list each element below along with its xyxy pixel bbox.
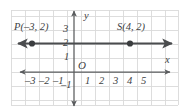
point-s-marker xyxy=(127,40,133,46)
origin-label: O xyxy=(78,60,86,71)
graph-canvas xyxy=(0,0,184,112)
point-label-s: S(4, 2) xyxy=(117,22,145,33)
x-tick-label-3: 3 xyxy=(113,76,118,87)
coordinate-plane-figure: P(–3, 2) S(4, 2) y x O 3 2 1 –1 –3 –2 –1… xyxy=(0,0,184,112)
y-tick-label-2: 2 xyxy=(63,38,68,49)
x-tick-label-4: 4 xyxy=(127,76,132,87)
y-axis-label: y xyxy=(84,11,89,22)
point-p-marker xyxy=(29,40,35,46)
y-tick-label-3: 3 xyxy=(63,24,68,35)
x-axis-label: x xyxy=(165,55,170,66)
x-tick-label-2: 2 xyxy=(99,76,104,87)
point-label-p: P(–3, 2) xyxy=(14,22,48,33)
x-tick-label-5: 5 xyxy=(141,76,146,87)
y-tick-label-1: 1 xyxy=(64,52,69,63)
x-tick-label-neg-2: –2 xyxy=(39,76,50,87)
x-tick-label-neg-1: –1 xyxy=(53,76,64,87)
x-tick-label-neg-3: –3 xyxy=(25,76,36,87)
x-tick-label-1: 1 xyxy=(85,76,90,87)
